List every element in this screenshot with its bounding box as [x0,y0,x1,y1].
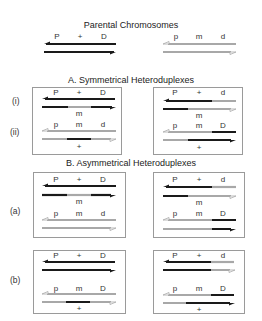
svg-text:m: m [196,121,203,130]
svg-text:+: + [197,143,202,152]
svg-text:+: + [197,305,202,314]
sym-left-bottom-pair: p m d + [42,120,116,151]
svg-text:m: m [76,209,83,218]
svg-text:+: + [77,304,82,313]
svg-text:P: P [172,175,177,184]
svg-text:m: m [76,109,83,118]
svg-text:+: + [197,88,202,97]
svg-text:p: p [54,284,59,293]
svg-text:D: D [220,284,226,293]
parental-light-chromosome: p m d [163,32,236,55]
arrowhead-icon [44,42,50,45]
marker-P: P [54,32,59,41]
svg-text:+: + [197,251,202,260]
arrowhead-icon [230,52,236,55]
svg-text:+: + [77,88,82,97]
svg-text:d: d [101,120,105,129]
svg-text:D: D [100,88,106,97]
svg-text:+: + [77,142,82,151]
asym-b-right-top-pair: P + d [163,251,235,273]
marker-p: p [174,32,179,41]
marker-d: d [221,32,225,41]
arrowhead-icon [163,42,169,45]
svg-text:+: + [77,175,82,184]
svg-text:d: d [221,175,225,184]
arrowhead-icon [110,52,116,55]
svg-text:p: p [173,209,178,218]
marker-plus: + [78,32,83,41]
svg-text:m: m [76,120,83,129]
sym-right-top-pair: P + d m [163,88,236,120]
svg-text:D: D [220,209,226,218]
svg-text:+: + [197,175,202,184]
svg-text:m: m [76,197,83,206]
svg-text:+: + [77,251,82,260]
asym-a-left-bottom-pair: p m d [42,209,116,231]
svg-text:P: P [53,175,58,184]
svg-text:p: p [54,120,59,129]
strand-diagram: P + D p m d P + D m p m d + P [0,0,262,321]
sym-left-top-pair: P + D m [42,88,116,118]
svg-text:d: d [221,251,225,260]
marker-m: m [196,32,203,41]
svg-text:m: m [196,198,203,207]
svg-text:D: D [100,175,106,184]
svg-text:P: P [172,88,177,97]
sym-right-bottom-pair: p m D + [163,121,236,152]
asym-b-right-bottom-pair: p m D + [163,284,235,314]
svg-text:D: D [220,121,226,130]
svg-text:m: m [196,284,203,293]
svg-text:D: D [100,251,106,260]
svg-text:m: m [196,209,203,218]
marker-D: D [101,32,107,41]
parental-dark-chromosome: P + D [44,32,116,55]
svg-text:d: d [101,209,105,218]
svg-text:m: m [76,284,83,293]
svg-text:P: P [172,251,177,260]
svg-text:D: D [100,284,106,293]
svg-text:P: P [53,88,58,97]
svg-text:p: p [173,284,178,293]
asym-a-right-top-pair: P + d m [163,175,236,207]
asym-b-left-top-pair: P + D [42,251,116,273]
svg-text:m: m [196,111,203,120]
asym-a-right-bottom-pair: p m D [163,209,236,232]
svg-text:d: d [221,88,225,97]
svg-text:p: p [54,209,59,218]
svg-text:p: p [173,121,178,130]
svg-text:P: P [53,251,58,260]
asym-b-left-bottom-pair: p m D + [42,284,116,313]
asym-a-left-top-pair: P + D m [42,175,116,206]
